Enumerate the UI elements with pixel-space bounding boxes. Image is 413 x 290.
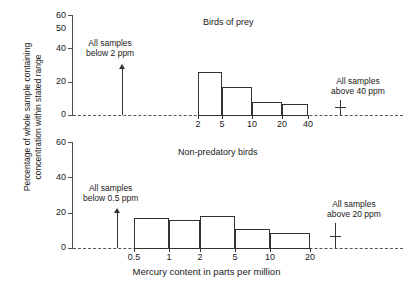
top-ytick-label-20: 20 — [44, 77, 66, 86]
top-ytick-20 — [68, 82, 72, 83]
bar-bottom-2-5 — [200, 216, 235, 249]
bottom-xtick-label-5: 5 — [223, 253, 247, 262]
top-ytick-label-0: 0 — [44, 110, 66, 119]
bottom-xtick-label-1: 1 — [157, 253, 181, 262]
bar-bottom-5-10 — [235, 229, 270, 249]
top-right-annotation-line1: All samples — [331, 76, 385, 86]
bar-bottom-0.5-1 — [134, 218, 169, 249]
top-ytick-40 — [68, 48, 72, 49]
top-ytick-label-40: 40 — [44, 44, 66, 53]
top-panel-title: Birds of prey — [203, 17, 254, 27]
bottom-xtick-label-20: 20 — [298, 253, 322, 262]
top-xtick-label-5: 5 — [210, 120, 234, 129]
bottom-ytick-label-40: 40 — [44, 173, 66, 182]
bottom-ytick-label-20: 20 — [44, 208, 66, 217]
bottom-left-annotation-line2: below 0.5 ppm — [83, 193, 138, 203]
top-right-annotation-line2: above 40 ppm — [331, 86, 385, 96]
top-left-annotation: All samples below 2 ppm — [86, 38, 134, 58]
bottom-right-annotation: All samples above 20 ppm — [327, 199, 381, 219]
chart-figure: Percentage of whole sample containing co… — [0, 0, 413, 290]
top-ytick-0 — [68, 115, 72, 116]
bottom-ytick-20 — [68, 213, 72, 214]
top-left-annotation-line2: below 2 ppm — [86, 48, 134, 58]
bottom-xtick-label-0.5: 0.5 — [122, 253, 146, 262]
bar-top-10-20 — [252, 102, 282, 116]
bottom-ytick-40 — [68, 177, 72, 178]
bottom-ytick-label-60: 60 — [44, 138, 66, 147]
bottom-panel-title: Non-predatory birds — [178, 147, 258, 157]
bottom-left-arrow-stem — [117, 212, 118, 248]
y-axis-title-line2: concentration within stated range — [33, 2, 44, 232]
bottom-right-tmark-bar — [330, 236, 341, 237]
y-axis-title-line1: Percentage of whole sample containing — [22, 2, 33, 232]
bar-top-5-10 — [222, 87, 252, 116]
bottom-xtick-label-2: 2 — [188, 253, 212, 262]
top-xtick-label-20: 20 — [270, 120, 294, 129]
top-ytick-label-60: 60 — [44, 11, 66, 20]
top-y-axis-line — [72, 15, 73, 116]
top-ytick-label-50: 50 — [44, 24, 66, 33]
top-left-arrow-stem — [122, 68, 123, 115]
bottom-ytick-label-0: 0 — [44, 243, 66, 252]
top-xtick-label-40: 40 — [296, 120, 320, 129]
top-ytick-60 — [68, 15, 72, 16]
bottom-xtick-label-10: 10 — [258, 253, 282, 262]
top-xtick-label-2: 2 — [186, 120, 210, 129]
bottom-left-annotation-line1: All samples — [83, 183, 138, 193]
bottom-right-annotation-line2: above 20 ppm — [327, 209, 381, 219]
bar-top-20-40 — [282, 104, 308, 116]
x-axis-title: Mercury content in parts per million — [0, 266, 413, 277]
bar-bottom-10-20 — [270, 233, 310, 249]
y-axis-title: Percentage of whole sample containing co… — [22, 2, 44, 232]
top-xtick-label-10: 10 — [240, 120, 264, 129]
bar-bottom-1-2 — [169, 220, 200, 249]
bar-top-2-5 — [198, 72, 222, 116]
top-right-annotation: All samples above 40 ppm — [331, 76, 385, 96]
bottom-y-axis-line — [72, 142, 73, 249]
bottom-ytick-60 — [68, 142, 72, 143]
top-left-annotation-line1: All samples — [86, 38, 134, 48]
bottom-left-annotation: All samples below 0.5 ppm — [83, 183, 138, 203]
top-right-tmark-bar — [335, 107, 346, 108]
bottom-right-annotation-line1: All samples — [327, 199, 381, 209]
bottom-ytick-0 — [68, 248, 72, 249]
